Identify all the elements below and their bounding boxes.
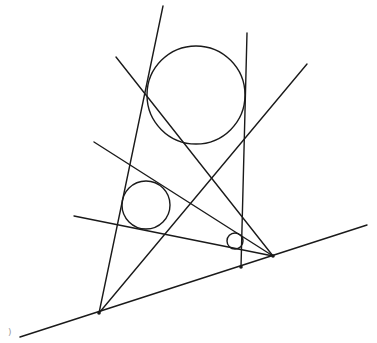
circle-medium [122, 181, 170, 229]
line-b-vertical [241, 33, 247, 267]
point-b [239, 265, 243, 269]
lines-layer [20, 6, 367, 337]
point-a [97, 311, 101, 315]
circle-small [227, 233, 243, 249]
line-c-long [116, 57, 273, 256]
base-line [20, 225, 367, 337]
circles-layer [122, 46, 245, 249]
geometry-diagram: ) [0, 0, 377, 343]
line-c-low [74, 216, 273, 256]
circle-large [147, 46, 245, 144]
line-c-middle [94, 142, 273, 256]
line-a-steep [99, 6, 163, 313]
line-a-diagonal [99, 64, 307, 313]
point-c [271, 254, 275, 258]
corner-mark: ) [8, 327, 12, 337]
